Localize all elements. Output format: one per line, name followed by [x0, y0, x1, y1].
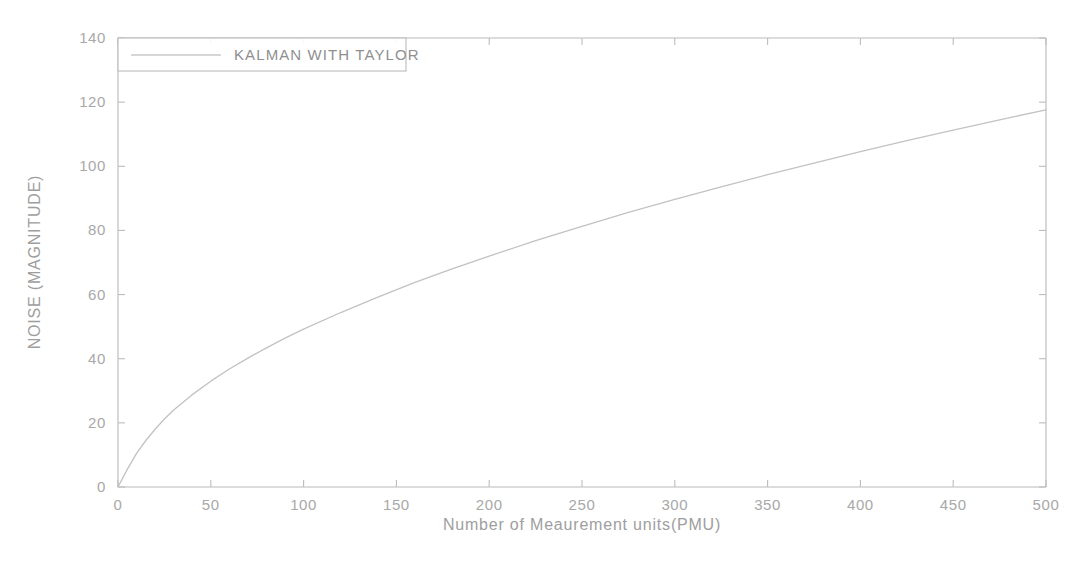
y-tick-label: 20: [88, 414, 106, 431]
y-tick-label: 120: [79, 93, 106, 110]
y-tick-label: 80: [88, 221, 106, 238]
chart-figure: 020406080100120140 050100150200250300350…: [0, 0, 1075, 570]
y-axis-ticks: 020406080100120140: [79, 29, 1046, 495]
legend-label-0: KALMAN WITH TAYLOR: [234, 46, 420, 63]
x-tick-label: 100: [290, 496, 317, 513]
x-tick-label: 50: [202, 496, 220, 513]
y-tick-label: 100: [79, 157, 106, 174]
y-tick-label: 40: [88, 350, 106, 367]
y-axis-title: NOISE (MAGNITUDE): [26, 175, 43, 350]
x-axis-ticks: 050100150200250300350400450500: [114, 38, 1060, 513]
x-tick-label: 0: [114, 496, 123, 513]
x-tick-label: 400: [847, 496, 874, 513]
x-tick-label: 250: [569, 496, 596, 513]
y-tick-label: 0: [97, 478, 106, 495]
legend[interactable]: KALMAN WITH TAYLOR: [118, 38, 420, 71]
x-tick-label: 450: [940, 496, 967, 513]
x-tick-label: 150: [383, 496, 410, 513]
x-tick-label: 300: [661, 496, 688, 513]
y-tick-label: 140: [79, 29, 106, 46]
series-line-kalman-with-taylor: [118, 110, 1046, 487]
x-tick-label: 350: [754, 496, 781, 513]
x-axis-title: Number of Meaurement units(PMU): [443, 516, 721, 533]
y-tick-label: 60: [88, 286, 106, 303]
data-series-group: [118, 110, 1046, 487]
plot-frame: [118, 38, 1046, 487]
line-chart: 020406080100120140 050100150200250300350…: [0, 0, 1075, 570]
x-tick-label: 500: [1033, 496, 1060, 513]
x-tick-label: 200: [476, 496, 503, 513]
